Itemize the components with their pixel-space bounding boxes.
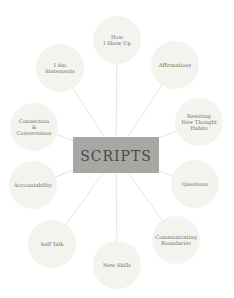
node-label: Connection: [19, 118, 50, 124]
scripts-mind-map: HowI Show UpAffirmationsRewiringNew Thou…: [0, 0, 234, 298]
node-label: New Skills: [103, 262, 131, 268]
node-label: How: [111, 34, 124, 40]
node-communicating-boundaries: CommunicatingBoundaries: [152, 216, 200, 264]
node-label: Conversation: [17, 130, 53, 136]
node-accountability: Accountability: [9, 161, 57, 209]
node-how-i-show-up: HowI Show Up: [93, 16, 141, 64]
connector-communicating-boundaries: [128, 171, 163, 220]
center-node: SCRIPTS: [73, 137, 159, 173]
node-label: Questions: [182, 181, 209, 187]
node-label: Statements: [45, 68, 75, 74]
node-label: I Show Up: [103, 40, 131, 47]
center-label: SCRIPTS: [80, 148, 152, 164]
node-self-talk: Self Talk: [28, 220, 76, 268]
connector-how-i-show-up: [116, 64, 117, 135]
node-label: &: [32, 124, 37, 130]
node-label: Boundaries: [161, 240, 191, 246]
node-label: Affirmations: [158, 62, 192, 68]
node-label: I Am: [54, 62, 66, 68]
connector-self-talk: [66, 171, 104, 224]
connector-new-skills: [116, 175, 117, 241]
node-connection-conversation: Connection&Conversation: [10, 103, 58, 151]
node-affirmations: Affirmations: [151, 41, 199, 89]
node-label: Self Talk: [41, 241, 65, 247]
node-rewiring-new-thought-habits: RewiringNew ThoughtHabits: [175, 98, 223, 146]
node-label: Accountability: [13, 182, 52, 189]
node-i-am-statements: I AmStatements: [36, 44, 84, 92]
node-questions: Questions: [171, 160, 219, 208]
node-new-skills: New Skills: [93, 241, 141, 289]
node-label: Habits: [190, 125, 208, 131]
connector-affirmations: [127, 85, 162, 138]
connector-i-am-statements: [73, 88, 105, 138]
